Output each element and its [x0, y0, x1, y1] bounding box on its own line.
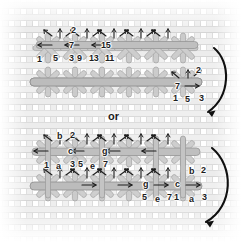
stitch-label: a [189, 195, 194, 204]
stitch-label: g [143, 180, 148, 189]
stitch-label: 2 [201, 166, 206, 175]
stitch-label: 15 [101, 41, 111, 50]
stitch-label: 2 [70, 131, 75, 140]
stitch-label: a [56, 162, 61, 171]
stitch-label: c [175, 180, 180, 189]
stitch-label: 7 [167, 193, 172, 202]
stitch-label: 1 [44, 161, 49, 170]
stitch-diagram-figure: 2 7 15 1 5 3 9 13 11 2 7 1 5 3 or [0, 0, 241, 242]
stitch-label: 2 [71, 26, 76, 35]
stitch-label: 7 [69, 41, 74, 50]
stitch-label: g [102, 147, 107, 156]
stitch-label: 1 [37, 55, 42, 64]
stitch-label: 5 [78, 160, 83, 169]
stitch-label: 2 [196, 66, 201, 75]
stitch-label: e [155, 195, 160, 204]
stitch-label: 1 [173, 94, 178, 103]
stitch-label: 7 [175, 82, 180, 91]
stitch-label: 3 [202, 193, 207, 202]
stitch-label: c [68, 147, 73, 156]
stitch-label: 5 [53, 54, 58, 63]
return-arrow-top [208, 48, 226, 112]
stitch-label: 5 [142, 193, 147, 202]
stitch-label: 13 [89, 54, 99, 63]
stitch-label: 3 [69, 54, 74, 63]
stitch-label: 3 [199, 94, 204, 103]
stitch-label: 11 [105, 54, 114, 63]
stitch-label: b [57, 132, 62, 141]
stitch-label: 5 [185, 95, 190, 104]
stitch-artwork-bottom [0, 120, 241, 242]
stitch-label: 3 [70, 160, 75, 169]
stitch-label: b [189, 167, 194, 176]
stitch-label: 9 [77, 54, 82, 63]
stitch-label: 7 [103, 160, 108, 169]
stitch-label: e [90, 162, 95, 171]
return-arrow-bottom [206, 148, 228, 222]
stitch-label: 1 [174, 193, 179, 202]
